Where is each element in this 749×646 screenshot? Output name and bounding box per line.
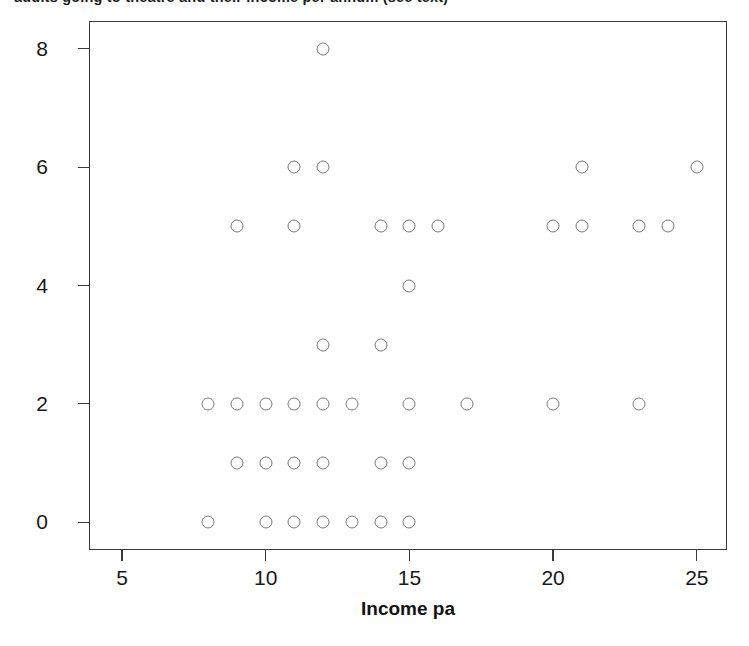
x-tick-label: 15 <box>398 566 421 590</box>
data-point <box>317 42 330 55</box>
data-point <box>231 397 244 410</box>
y-tick-label: 8 <box>36 37 48 61</box>
data-point <box>288 397 301 410</box>
data-point <box>259 397 272 410</box>
data-point <box>288 161 301 174</box>
x-tick-mark <box>409 550 410 561</box>
data-point <box>432 220 445 233</box>
data-point <box>231 457 244 470</box>
data-point <box>403 279 416 292</box>
data-point <box>259 516 272 529</box>
data-point <box>662 220 675 233</box>
data-point <box>547 397 560 410</box>
x-tick-mark <box>121 550 122 561</box>
data-point <box>345 397 358 410</box>
data-point <box>288 516 301 529</box>
data-point <box>231 220 244 233</box>
y-tick-mark <box>78 403 89 404</box>
x-tick-label: 5 <box>116 566 128 590</box>
data-point <box>317 516 330 529</box>
y-tick-mark <box>78 167 89 168</box>
y-tick-label: 0 <box>36 510 48 534</box>
data-point <box>288 220 301 233</box>
x-axis-label: Income pa <box>361 598 455 620</box>
data-point <box>374 457 387 470</box>
y-tick-label: 6 <box>36 155 48 179</box>
data-point <box>202 397 215 410</box>
x-tick-mark <box>552 550 553 561</box>
data-point <box>317 457 330 470</box>
data-point <box>288 457 301 470</box>
data-point <box>403 457 416 470</box>
data-point <box>202 516 215 529</box>
scatter-plot-figure: adults going to theatre and their income… <box>0 0 749 646</box>
x-tick-label: 10 <box>254 566 277 590</box>
figure-caption-text: adults going to theatre and their income… <box>14 0 448 5</box>
data-point <box>575 161 588 174</box>
y-tick-mark <box>78 48 89 49</box>
data-point <box>317 161 330 174</box>
data-point <box>403 397 416 410</box>
data-point <box>547 220 560 233</box>
data-point <box>633 397 646 410</box>
y-tick-label: 4 <box>36 274 48 298</box>
y-tick-mark <box>78 285 89 286</box>
figure-caption-cutoff: adults going to theatre and their income… <box>0 0 749 12</box>
data-point <box>345 516 358 529</box>
data-point <box>374 220 387 233</box>
data-point <box>317 397 330 410</box>
y-axis-label: Visit theatre <box>0 206 3 366</box>
data-point <box>259 457 272 470</box>
y-tick-mark <box>78 522 89 523</box>
x-tick-label: 25 <box>685 566 708 590</box>
y-tick-label: 2 <box>36 392 48 416</box>
data-point <box>403 516 416 529</box>
x-tick-label: 20 <box>541 566 564 590</box>
x-tick-mark <box>696 550 697 561</box>
data-point <box>317 338 330 351</box>
data-point <box>633 220 646 233</box>
data-point <box>374 338 387 351</box>
data-point <box>690 161 703 174</box>
data-point <box>374 516 387 529</box>
data-point <box>575 220 588 233</box>
data-point <box>460 397 473 410</box>
x-tick-mark <box>265 550 266 561</box>
data-point <box>403 220 416 233</box>
